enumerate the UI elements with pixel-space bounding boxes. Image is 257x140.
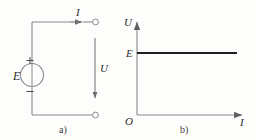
figure-canvas: E I U a) U I E O b)	[0, 0, 257, 140]
emf-source-symbol	[21, 57, 44, 92]
graph-axes	[137, 22, 242, 115]
terminal-top-icon	[93, 19, 99, 25]
voltage-label-U: U	[100, 62, 109, 74]
source-label-E: E	[12, 69, 21, 83]
current-label-I: I	[75, 6, 81, 18]
caption-panel-b: b)	[180, 124, 188, 136]
terminal-bottom-icon	[93, 112, 99, 118]
caption-panel-a: a)	[59, 124, 67, 136]
y-axis-label-U: U	[124, 16, 133, 28]
origin-label-O: O	[125, 115, 133, 127]
figure-root: E I U a) U I E O b)	[0, 0, 257, 140]
x-axis-label-I: I	[239, 116, 245, 128]
level-label-E: E	[125, 47, 133, 59]
